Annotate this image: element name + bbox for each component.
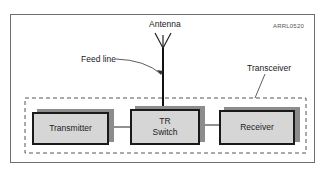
- tr-switch-block: TR Switch: [130, 109, 200, 145]
- receiver-block: Receiver: [219, 110, 295, 145]
- feed-line-label: Feed line: [81, 54, 116, 64]
- tr-switch-label-line2: Switch: [152, 127, 177, 138]
- receiver-label: Receiver: [240, 122, 274, 133]
- antenna-icon: [155, 33, 171, 48]
- transmitter-block: Transmitter: [32, 112, 109, 145]
- transmitter-label: Transmitter: [49, 123, 92, 134]
- figure-id: ARRL0520: [273, 23, 304, 29]
- feed-line-leader: [116, 59, 161, 74]
- antenna-label: Antenna: [149, 19, 181, 29]
- transceiver-leader: [255, 74, 265, 98]
- tr-switch-label-line1: TR: [159, 116, 170, 127]
- transceiver-label: Transceiver: [247, 63, 291, 73]
